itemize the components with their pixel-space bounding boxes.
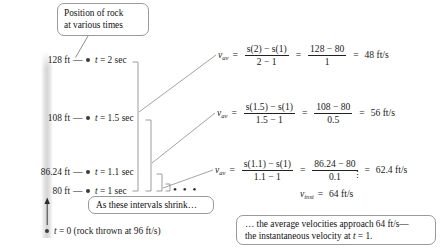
eq2-frac1-denominator: 1.5 − 1 [244, 113, 295, 125]
eq2-equals-2: = [300, 108, 308, 118]
eq2-fraction-1: s(1.5) − s(1) 1.5 − 1 [241, 102, 298, 124]
eq1-frac1-denominator: 2 − 1 [245, 55, 289, 67]
equation-average-velocity-1: vav = s(2) − s(1) 2 − 1 = 128 − 80 1 = 4… [218, 44, 389, 66]
eq3-frac2-denominator: 0.1 [312, 170, 357, 182]
height-label-80: 80 ft [10, 185, 70, 197]
time-value-t1: = 1 sec [98, 186, 127, 196]
callout-intervals-shrink: As these intervals shrink… [88, 196, 214, 214]
callout-position-line1: Position of rock [64, 8, 142, 20]
bracket-smallest [166, 184, 170, 191]
origin-description: = 0 (rock thrown at 96 ft/s) [57, 226, 161, 236]
eq1-lhs: vav [218, 50, 229, 60]
eq2-result: 56 ft/s [369, 108, 395, 118]
equation-instantaneous-velocity: vinst = 64 ft/s [300, 188, 353, 199]
time-value-t1p5: = 1.5 sec [98, 113, 134, 123]
eq2-lhs-sub: av [221, 112, 227, 119]
eq3-frac2-numerator: 86.24 − 80 [312, 159, 357, 170]
time-label-t2: t = 2 sec [95, 54, 127, 66]
position-dot-t1p5 [86, 116, 90, 120]
eq1-fraction-1: s(2) − s(1) 2 − 1 [242, 44, 292, 66]
callout-approach-line2: the instantaneous velocity at t = 1. [245, 231, 429, 243]
position-dot-t1 [86, 189, 90, 193]
axis-point-t0: t = 0 (rock thrown at 96 ft/s) [0, 225, 230, 237]
time-label-t1p1: t = 1.1 sec [95, 166, 134, 178]
eq3-frac1-denominator: 1.1 − 1 [242, 170, 293, 182]
vinst-lhs: vinst [300, 189, 314, 199]
horizontal-ellipsis: • • • [173, 183, 198, 195]
tick-dash-108: — [73, 112, 82, 124]
eq3-equals-3: = [363, 165, 371, 175]
eq1-frac1-numerator: s(2) − s(1) [245, 44, 289, 55]
position-dot-t1p1 [86, 170, 90, 174]
eq3-equals-1: = [228, 165, 236, 175]
axis-point-t2: 128 ft — t = 2 sec [0, 54, 160, 66]
eq1-fraction-2: 128 − 80 1 [305, 44, 349, 66]
time-value-t2: = 2 sec [98, 55, 127, 65]
figure-graphics [0, 0, 445, 250]
equation-average-velocity-2: vav = s(1.5) − s(1) 1.5 − 1 = 108 − 80 0… [217, 102, 395, 124]
eq2-frac2-denominator: 0.5 [314, 113, 352, 125]
eq2-frac1-numerator: s(1.5) − s(1) [244, 102, 295, 113]
callout-position-of-rock: Position of rock at various times [57, 3, 149, 36]
eq1-result: 48 ft/s [362, 50, 388, 60]
eq1-frac2-denominator: 1 [308, 55, 346, 67]
eq1-frac2-numerator: 128 − 80 [308, 44, 346, 55]
callout-velocities-approach: … the average velocities approach 64 ft/… [236, 215, 436, 245]
height-label-108: 108 ft [10, 112, 70, 124]
eq2-equals-1: = [230, 108, 238, 118]
height-label-128: 128 ft [10, 54, 70, 66]
eq2-lhs: vav [217, 108, 228, 118]
eq3-lhs: vav [215, 165, 226, 175]
time-label-t1p5: t = 1.5 sec [95, 112, 134, 124]
vertical-ellipsis: ⋮ [352, 174, 362, 177]
vertical-ellipsis-glyph: ⋮ [352, 174, 362, 177]
height-label-86p24: 86.24 ft [0, 166, 70, 178]
vinst-lhs-sub: inst [304, 193, 314, 200]
eq2-fraction-2: 108 − 80 0.5 [311, 102, 355, 124]
figure-canvas: Position of rock at various times 128 ft… [0, 0, 445, 250]
eq3-frac1-numerator: s(1.1) − s(1) [242, 159, 293, 170]
eq3-equals-2: = [298, 165, 306, 175]
tick-dash-86p24: — [73, 166, 82, 178]
time-label-t0: t = 0 (rock thrown at 96 ft/s) [54, 225, 161, 237]
eq1-lhs-sub: av [222, 54, 228, 61]
eq3-lhs-sub: av [219, 169, 225, 176]
callout-approach-line2-pre: the instantaneous velocity at [245, 231, 353, 241]
callout-approach-line1: … the average velocities approach 64 ft/… [245, 219, 429, 231]
axis-point-t1p1: 86.24 ft — t = 1.1 sec [0, 166, 160, 178]
bracket-1-to-1p5 [146, 120, 151, 191]
tick-dash-128: — [73, 54, 82, 66]
eq1-equals-3: = [352, 50, 360, 60]
vinst-result: 64 ft/s [327, 189, 353, 199]
eq2-equals-3: = [358, 108, 366, 118]
callout-position-line2: at various times [64, 20, 142, 32]
eq3-fraction-1: s(1.1) − s(1) 1.1 − 1 [239, 159, 296, 181]
equation-average-velocity-3: vav = s(1.1) − s(1) 1.1 − 1 = 86.24 − 80… [215, 159, 407, 181]
callout-approach-line2-post: = 1. [356, 231, 373, 241]
position-dot-t2 [86, 58, 90, 62]
eq2-frac2-numerator: 108 − 80 [314, 102, 352, 113]
leader-eq-2 [152, 113, 215, 163]
tick-dash-80: — [73, 185, 82, 197]
time-value-t1p1: = 1.1 sec [98, 167, 134, 177]
vinst-equals: = [316, 189, 324, 199]
eq3-result: 62.4 ft/s [374, 165, 407, 175]
position-dot-t0 [45, 229, 49, 233]
eq1-equals-2: = [294, 50, 302, 60]
axis-point-t1p5: 108 ft — t = 1.5 sec [0, 112, 160, 124]
eq1-equals-1: = [231, 50, 239, 60]
